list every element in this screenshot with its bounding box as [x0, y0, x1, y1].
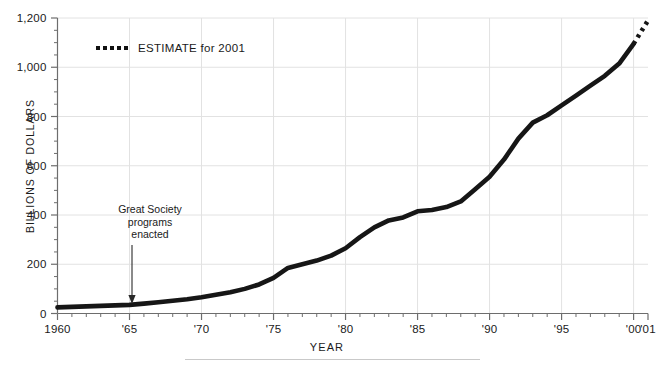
x-tick-label: '85 [398, 323, 438, 335]
annotation-great-society: Great Society programs enacted [94, 203, 206, 241]
x-tick-label: 1960 [38, 323, 78, 335]
annotation-line-1: Great Society [94, 203, 206, 216]
chart-legend: ESTIMATE for 2001 [96, 42, 245, 54]
x-major-ticks-group [58, 314, 649, 321]
series-line-estimate [634, 20, 648, 43]
annotation-line-2: programs [94, 216, 206, 229]
y-tick-label: 1,000 [0, 61, 47, 73]
y-tick-label: 0 [0, 308, 47, 320]
x-axis-title: YEAR [0, 341, 654, 353]
y-tick-label: 200 [0, 258, 47, 270]
y-tick-label: 1,200 [0, 12, 47, 24]
y-tick-label: 800 [0, 111, 47, 123]
gridlines-group [58, 18, 649, 314]
y-major-ticks-group [51, 18, 58, 314]
x-tick-label: '80 [326, 323, 366, 335]
x-tick-label: '65 [110, 323, 150, 335]
x-tick-label: '70 [182, 323, 222, 335]
bottom-divider [185, 359, 480, 360]
annotation-line-3: enacted [94, 228, 206, 241]
x-tick-label: '75 [254, 323, 294, 335]
y-tick-label: 600 [0, 160, 47, 172]
y-tick-label: 400 [0, 209, 47, 221]
x-tick-label: '95 [542, 323, 582, 335]
legend-dotted-swatch-icon [96, 46, 130, 50]
x-tick-label: '90 [470, 323, 510, 335]
legend-label-estimate: ESTIMATE for 2001 [138, 42, 245, 54]
x-tick-label: '01 [628, 323, 660, 335]
